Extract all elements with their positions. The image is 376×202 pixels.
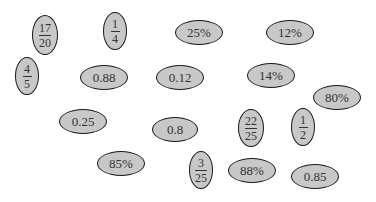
- numerator: 1: [112, 18, 118, 30]
- fraction-oval[interactable]: 12: [291, 108, 315, 146]
- value-oval[interactable]: 88%: [228, 158, 276, 183]
- numerator: 4: [24, 63, 30, 75]
- numerator: 1: [300, 114, 306, 126]
- value-oval[interactable]: 0.8: [152, 117, 198, 142]
- value-oval[interactable]: 0.85: [291, 164, 339, 189]
- oval-label: 0.8: [167, 123, 183, 136]
- value-oval[interactable]: 85%: [97, 151, 145, 176]
- value-oval[interactable]: 12%: [266, 20, 314, 45]
- numerator: 17: [39, 22, 51, 34]
- value-oval[interactable]: 25%: [175, 20, 223, 45]
- denominator: 25: [195, 172, 207, 184]
- value-oval[interactable]: 0.25: [59, 109, 107, 134]
- oval-label: 12%: [278, 26, 302, 39]
- numerator: 3: [198, 157, 204, 169]
- oval-label: 0.12: [169, 71, 192, 84]
- fraction: 2225: [245, 115, 257, 142]
- oval-label: 0.25: [72, 115, 95, 128]
- fraction: 12: [299, 114, 308, 141]
- fraction-oval[interactable]: 1720: [32, 15, 58, 55]
- oval-label: 14%: [259, 69, 283, 82]
- fraction: 325: [195, 157, 207, 184]
- fraction: 45: [23, 63, 32, 90]
- oval-label: 85%: [109, 157, 133, 170]
- value-oval[interactable]: 0.12: [156, 65, 204, 90]
- fraction-oval[interactable]: 14: [103, 12, 127, 50]
- fraction-oval[interactable]: 2225: [238, 109, 264, 147]
- value-oval[interactable]: 14%: [247, 63, 295, 88]
- value-oval[interactable]: 0.88: [80, 65, 128, 90]
- oval-label: 0.85: [304, 170, 327, 183]
- denominator: 2: [300, 129, 306, 141]
- fraction-oval[interactable]: 45: [15, 57, 39, 95]
- oval-label: 88%: [240, 164, 264, 177]
- value-oval[interactable]: 80%: [313, 85, 361, 110]
- denominator: 4: [112, 33, 118, 45]
- oval-label: 25%: [187, 26, 211, 39]
- fraction: 1720: [39, 22, 51, 49]
- denominator: 5: [24, 78, 30, 90]
- fraction-oval[interactable]: 325: [189, 151, 213, 189]
- denominator: 20: [39, 37, 51, 49]
- oval-label: 0.88: [93, 71, 116, 84]
- numerator: 22: [245, 115, 257, 127]
- fraction: 14: [111, 18, 120, 45]
- oval-label: 80%: [325, 91, 349, 104]
- denominator: 25: [245, 130, 257, 142]
